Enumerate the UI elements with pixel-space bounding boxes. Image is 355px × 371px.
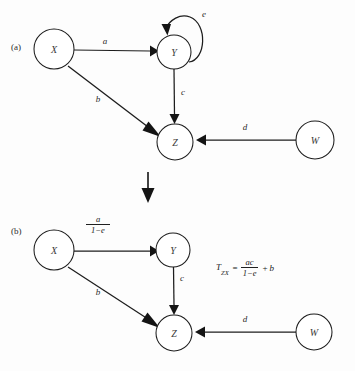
edge-a-x-to-y	[74, 46, 159, 57]
edge-a-over-1-minus-e-x-to-y	[74, 246, 159, 257]
edge-label-d: d	[243, 122, 248, 132]
edge-c-y-to-z	[170, 69, 180, 124]
edge-label-e: e	[202, 9, 206, 19]
formula-fraction-denominator: 1−e	[241, 268, 259, 277]
edge-label-a-over-1-minus-e: a 1−e	[86, 215, 110, 235]
node-z-panel-b: Z	[156, 315, 192, 351]
formula-addend: b	[270, 263, 275, 273]
formula-fraction-numerator: ac	[244, 258, 256, 267]
arrowhead-y-to-z	[170, 114, 180, 124]
edge-label-c: c	[181, 87, 185, 97]
transfer-formula: TZX = ac 1−e + b	[216, 258, 274, 278]
node-label-z: Z	[172, 137, 178, 148]
edge-label-d-panel-b: d	[243, 314, 248, 324]
node-label-x: X	[50, 44, 58, 55]
edge-label-a: a	[103, 36, 108, 46]
arrowhead-w-to-z	[196, 135, 206, 146]
fraction-numerator: a	[94, 215, 102, 224]
diagram-canvas: a b c d e X Y	[0, 0, 355, 371]
transition-down-arrow-icon	[142, 172, 155, 203]
edge-label-c-panel-b: c	[180, 273, 184, 283]
edge-d-w-to-z	[196, 135, 296, 146]
fraction-denominator: 1−e	[89, 225, 107, 234]
formula-fraction: ac 1−e	[241, 258, 259, 278]
edge-b-x-to-z-panel-b	[68, 267, 160, 328]
node-w-panel-b: W	[296, 314, 332, 350]
formula-lhs: TZX	[216, 262, 230, 274]
arrowhead-y-to-z-panel-b	[169, 305, 179, 315]
edge-d-w-to-z-panel-b	[195, 327, 296, 338]
node-w-panel-a: W	[296, 121, 334, 159]
formula-plus: +	[258, 263, 269, 273]
node-z-panel-a: Z	[157, 124, 193, 160]
causal-diagram-figure: (a) (b) a b c d	[0, 0, 355, 371]
formula-equals: =	[230, 263, 241, 273]
node-x-panel-a: X	[34, 29, 74, 69]
formula-lhs-subscript: ZX	[221, 269, 229, 276]
arrowhead-w-to-z-panel-b	[195, 327, 205, 338]
node-y-panel-a: Y	[157, 35, 191, 69]
arrowhead-y-self-loop	[162, 24, 172, 36]
node-label-z-panel-b: Z	[171, 328, 177, 339]
node-y-panel-b: Y	[156, 233, 190, 267]
edge-label-b: b	[96, 94, 101, 104]
edge-b-x-to-z	[68, 66, 161, 137]
node-x-panel-b: X	[34, 230, 74, 270]
edge-c-y-to-z-panel-b	[169, 267, 179, 315]
edge-label-b-panel-b: b	[96, 287, 101, 297]
node-label-x-panel-b: X	[50, 245, 58, 256]
